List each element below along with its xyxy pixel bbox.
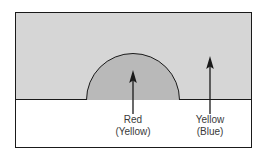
dome-label-line1: Red <box>124 114 142 125</box>
diagram-figure: Red (Yellow) Yellow (Blue) <box>0 0 267 160</box>
upper-region-label-line2: (Blue) <box>180 126 240 138</box>
dome-label-line2: (Yellow) <box>103 126 163 138</box>
dome-label: Red (Yellow) <box>103 114 163 137</box>
upper-region-label: Yellow (Blue) <box>180 114 240 137</box>
upper-region-arrow <box>200 54 220 114</box>
dome-arrow <box>123 68 143 114</box>
upper-region-label-line1: Yellow <box>196 114 225 125</box>
